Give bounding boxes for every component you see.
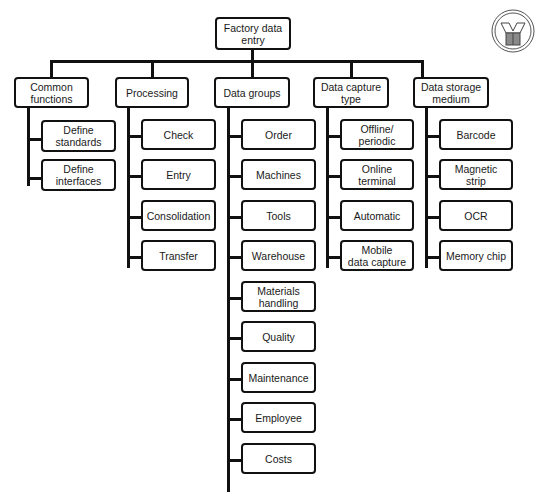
- node-transfer: Transfer: [141, 240, 216, 271]
- branch: [227, 216, 242, 219]
- node-entry: Entry: [141, 159, 216, 190]
- node-mobile-data-capture: Mobile data capture: [340, 240, 414, 271]
- node-define-interfaces: Define interfaces: [41, 159, 116, 191]
- spine-capture: [326, 108, 329, 268]
- category-processing: Processing: [115, 77, 189, 108]
- node-maintenance: Maintenance: [241, 362, 316, 393]
- branch: [127, 175, 142, 178]
- spine-storage: [425, 108, 428, 268]
- drop-common: [50, 60, 53, 77]
- branch: [326, 256, 341, 259]
- category-bus: [50, 60, 424, 63]
- branch: [227, 175, 242, 178]
- branch: [425, 175, 440, 178]
- branch: [425, 135, 440, 138]
- branch: [425, 216, 440, 219]
- root-node-factory-data-entry: Factory data entry: [215, 17, 291, 50]
- spine-processing: [127, 108, 130, 268]
- branch: [326, 175, 341, 178]
- node-automatic: Automatic: [340, 200, 414, 231]
- drop-capture: [350, 60, 353, 77]
- node-materials-handling: Materials handling: [241, 281, 316, 312]
- branch: [27, 177, 42, 180]
- drop-storage: [421, 60, 424, 77]
- branch: [227, 459, 242, 462]
- node-magnetic-strip: Magnetic strip: [439, 159, 513, 190]
- branch: [326, 135, 341, 138]
- node-costs: Costs: [241, 443, 316, 474]
- branch: [227, 135, 242, 138]
- node-offline-periodic: Offline/ periodic: [340, 119, 414, 150]
- branch: [127, 256, 142, 259]
- node-consolidation: Consolidation: [141, 200, 216, 231]
- spine-common: [27, 108, 30, 186]
- category-data-groups: Data groups: [214, 77, 290, 108]
- node-memory-chip: Memory chip: [439, 240, 513, 271]
- node-define-standards: Define standards: [41, 120, 116, 152]
- branch: [227, 337, 242, 340]
- company-logo-icon: [490, 8, 536, 54]
- node-quality: Quality: [241, 321, 316, 352]
- branch: [127, 135, 142, 138]
- branch: [326, 216, 341, 219]
- node-warehouse: Warehouse: [241, 240, 316, 271]
- node-employee: Employee: [241, 402, 316, 433]
- node-check: Check: [141, 119, 216, 150]
- branch: [27, 138, 42, 141]
- drop-groups: [251, 60, 254, 77]
- drop-processing: [151, 60, 154, 77]
- category-data-capture-type: Data capture type: [313, 77, 389, 108]
- node-online-terminal: Online terminal: [340, 159, 414, 190]
- branch: [227, 378, 242, 381]
- spine-groups: [227, 108, 230, 492]
- branch: [425, 256, 440, 259]
- node-machines: Machines: [241, 159, 316, 190]
- branch: [127, 216, 142, 219]
- category-data-storage-medium: Data storage medium: [413, 77, 489, 108]
- node-barcode: Barcode: [439, 119, 513, 150]
- branch: [227, 418, 242, 421]
- branch: [227, 256, 242, 259]
- node-order: Order: [241, 119, 316, 150]
- node-tools: Tools: [241, 200, 316, 231]
- category-common-functions: Common functions: [14, 77, 89, 108]
- branch: [227, 297, 242, 300]
- node-ocr: OCR: [439, 200, 513, 231]
